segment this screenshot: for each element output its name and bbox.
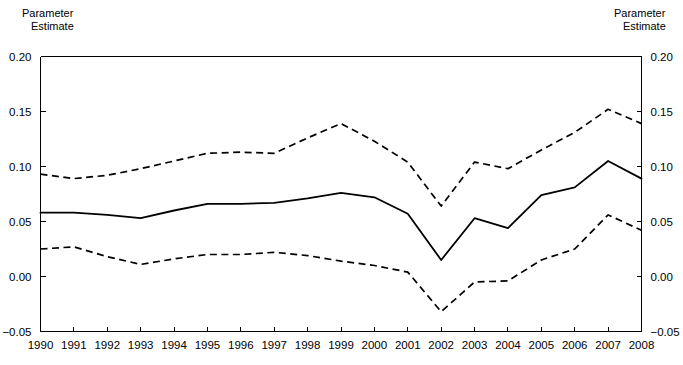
axes — [41, 57, 642, 332]
x-tick-label-1995: 1995 — [195, 339, 221, 351]
y-tick-label-right-4: 0.00 — [651, 271, 673, 283]
left-axis-title-line1: Parameter — [22, 7, 74, 19]
x-tick-label-2002: 2002 — [428, 339, 454, 351]
right-axis-title-line2: Estimate — [623, 20, 666, 32]
x-tick-label-2007: 2007 — [595, 339, 621, 351]
x-tick-label-2008: 2008 — [629, 339, 655, 351]
x-tick-label-1992: 1992 — [94, 339, 120, 351]
x-tick-label-1994: 1994 — [161, 339, 187, 351]
x-tick-label-1990: 1990 — [28, 339, 54, 351]
x-tick-label-2004: 2004 — [495, 339, 521, 351]
x-tick-label-1993: 1993 — [128, 339, 154, 351]
x-tick-label-2001: 2001 — [395, 339, 421, 351]
parameter-estimate-chart: Parameter Estimate Parameter Estimate 0.… — [0, 0, 683, 365]
x-tick-label-2003: 2003 — [462, 339, 488, 351]
y-tick-label-left-3: 0.05 — [9, 216, 31, 228]
left-axis-title-line2: Estimate — [31, 20, 74, 32]
x-tick-label-2000: 2000 — [362, 339, 388, 351]
x-tick-label-1996: 1996 — [228, 339, 254, 351]
y-tick-label-left-4: 0.00 — [9, 271, 31, 283]
right-axis-title-line1: Parameter — [614, 7, 666, 19]
y-axis-labels-left: 0.200.150.100.050.00−0.05 — [2, 51, 31, 338]
y-tick-label-right-2: 0.10 — [651, 161, 673, 173]
y-tick-label-right-1: 0.15 — [651, 106, 673, 118]
x-tick-label-1999: 1999 — [328, 339, 354, 351]
x-tick-label-2005: 2005 — [529, 339, 555, 351]
y-tick-label-left-2: 0.10 — [9, 161, 31, 173]
x-tick-label-1991: 1991 — [61, 339, 87, 351]
x-axis-labels: 1990199119921993199419951996199719981999… — [28, 339, 655, 351]
x-tick-label-1997: 1997 — [261, 339, 287, 351]
y-tick-label-right-0: 0.20 — [651, 51, 673, 63]
data-series — [41, 109, 642, 311]
series-line-0 — [41, 109, 642, 206]
tick-marks — [41, 57, 642, 332]
y-tick-label-left-0: 0.20 — [9, 51, 31, 63]
y-axis-labels-right: 0.200.150.100.050.00−0.05 — [651, 51, 680, 338]
x-tick-label-2006: 2006 — [562, 339, 588, 351]
y-tick-label-right-5: −0.05 — [651, 326, 680, 338]
chart-canvas: Parameter Estimate Parameter Estimate 0.… — [0, 0, 683, 365]
series-line-2 — [41, 215, 642, 312]
y-tick-label-left-1: 0.15 — [9, 106, 31, 118]
x-tick-label-1998: 1998 — [295, 339, 321, 351]
y-tick-label-left-5: −0.05 — [2, 326, 31, 338]
y-tick-label-right-3: 0.05 — [651, 216, 673, 228]
series-line-1 — [41, 161, 642, 260]
